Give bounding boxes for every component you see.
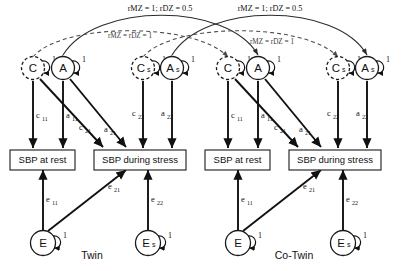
correlation-arc-shared-common: rMZ = rDZ = 1 <box>33 31 228 57</box>
path-label-c22-cotwin-sub: 22 <box>333 114 339 120</box>
path-label-e21-twin: e <box>108 181 112 191</box>
correlation-arc-additive-specific-path <box>172 15 367 55</box>
path-label-c21-twin: c <box>79 122 83 132</box>
latent-node-a-cotwin-label: A <box>254 62 262 74</box>
path-label-e22-cotwin: e <box>346 194 350 204</box>
correlation-arc-additive-common-path <box>63 15 258 55</box>
latent-node-cs-twin-label: C <box>137 62 145 74</box>
latent-node-c-twin: C 1 <box>22 55 57 80</box>
path-label-e22-twin-sub: 22 <box>157 200 163 206</box>
latent-node-e-twin-label: E <box>39 237 47 249</box>
latent-node-a-cotwin: A 1 <box>247 55 282 80</box>
path-c21-cotwin <box>235 79 298 147</box>
path-label-a22-cotwin-sub: 22 <box>362 114 368 120</box>
cotwin-panel: c 11 a 11 c 21 a 21 c 22 a 22 e 11 e 21 <box>205 55 390 261</box>
correlation-arc-shared-specific-path <box>143 31 338 57</box>
path-label-c21-cotwin: c <box>274 122 278 132</box>
path-label-a22-twin-sub: 22 <box>167 114 173 120</box>
correlation-arc-shared-specific: rMZ = rDZ = 1 <box>143 31 338 57</box>
path-a21-twin <box>70 79 126 147</box>
twin-panel: c 11 a 11 c 21 a 21 c 22 a 22 e <box>10 55 195 261</box>
correlation-arc-additive-common: rMZ = 1; rDZ = 0.5 <box>63 4 258 55</box>
observed-node-rest-cotwin-label: SBP at rest <box>214 154 262 165</box>
observed-node-stress-cotwin: SBP during stress <box>289 150 381 170</box>
path-e21-cotwin <box>243 170 321 231</box>
path-label-a22-twin: a <box>161 108 165 118</box>
latent-node-c-cotwin-label: C <box>224 62 232 74</box>
path-label-c22-twin: c <box>132 108 136 118</box>
path-label-a21-twin: a <box>104 124 108 134</box>
path-label-a21-cotwin-sub: 21 <box>305 130 311 136</box>
path-label-c11-cotwin-sub: 11 <box>237 116 243 122</box>
path-label-e21-cotwin-sub: 21 <box>309 187 315 193</box>
self-loop-label-a-cotwin: 1 <box>277 55 281 64</box>
path-label-c21-twin-sub: 21 <box>85 128 91 134</box>
self-loop-label-e-twin: 1 <box>63 231 67 240</box>
correlation-arc-additive-specific: rMZ = 1; rDZ = 0.5 <box>172 4 367 55</box>
latent-node-as-twin-label: A <box>166 62 174 74</box>
observed-node-rest-twin-label: SBP at rest <box>19 154 67 165</box>
latent-node-c-twin-label: C <box>29 62 37 74</box>
self-loop-label-a-twin: 1 <box>82 55 86 64</box>
path-label-e21-cotwin: e <box>303 181 307 191</box>
path-label-a21-cotwin: a <box>299 124 303 134</box>
correlation-label-additive-common: rMZ = 1; rDZ = 0.5 <box>128 4 193 13</box>
path-label-e11-cotwin: e <box>241 194 245 204</box>
latent-node-as-cotwin-label: A <box>361 62 369 74</box>
path-label-e11-cotwin-sub: 11 <box>247 200 253 206</box>
latent-node-a-twin: A 1 <box>52 55 87 80</box>
latent-node-e-cotwin-label: E <box>234 237 242 249</box>
path-label-a22-cotwin: a <box>356 108 360 118</box>
path-c21-twin <box>40 79 103 147</box>
latent-node-es-twin: E s 1 <box>136 231 173 256</box>
observed-node-stress-twin: SBP during stress <box>94 150 186 170</box>
latent-node-as-cotwin: A s 1 <box>356 55 391 80</box>
latent-node-as-twin: A s 1 <box>161 55 196 80</box>
latent-node-es-twin-label: E <box>142 237 150 249</box>
path-label-c11-cotwin: c <box>231 110 235 120</box>
self-loop-label-as-twin: 1 <box>191 55 195 64</box>
path-label-a21-twin-sub: 21 <box>110 130 116 136</box>
latent-node-cs-cotwin-label: C <box>332 62 340 74</box>
correlation-label-shared-specific: rMZ = rDZ = 1 <box>250 38 294 46</box>
self-loop-label-es-cotwin: 1 <box>363 231 367 240</box>
path-e21-twin <box>48 170 126 231</box>
path-label-c11-twin-sub: 11 <box>42 116 48 122</box>
group-label-twin: Twin <box>81 249 103 261</box>
self-loop-label-as-cotwin: 1 <box>386 55 390 64</box>
latent-node-as-twin-subscript: s <box>176 66 180 73</box>
latent-node-cs-twin-subscript: s <box>147 66 151 73</box>
latent-node-es-cotwin-label: E <box>337 237 345 249</box>
correlation-label-shared-common: rMZ = rDZ = 1 <box>108 32 152 40</box>
observed-node-rest-twin: SBP at rest <box>10 150 75 170</box>
latent-node-es-cotwin: E s 1 <box>331 231 368 256</box>
latent-node-cs-cotwin-subscript: s <box>342 66 346 73</box>
path-a21-cotwin <box>265 79 321 147</box>
path-diagram-container: rMZ = 1; rDZ = 0.5 rMZ = rDZ = 1 rMZ = 1… <box>0 0 414 271</box>
path-label-e22-cotwin-sub: 22 <box>352 200 358 206</box>
path-label-e21-twin-sub: 21 <box>114 187 120 193</box>
path-label-c21-cotwin-sub: 21 <box>280 128 286 134</box>
self-loop-label-e-cotwin: 1 <box>258 231 262 240</box>
path-label-e11-twin-sub: 11 <box>52 200 58 206</box>
path-label-c11-twin: c <box>36 110 40 120</box>
latent-node-es-cotwin-subscript: s <box>347 241 351 248</box>
latent-node-es-twin-subscript: s <box>152 241 156 248</box>
path-label-c22-twin-sub: 22 <box>138 114 144 120</box>
observed-node-stress-twin-label: SBP during stress <box>102 154 178 165</box>
latent-node-c-cotwin: C 1 <box>217 55 252 80</box>
correlation-label-additive-specific: rMZ = 1; rDZ = 0.5 <box>238 4 303 13</box>
group-label-cotwin: Co-Twin <box>275 249 314 261</box>
latent-node-e-cotwin: E 1 <box>226 231 263 256</box>
observed-node-stress-cotwin-label: SBP during stress <box>297 154 373 165</box>
latent-node-as-cotwin-subscript: s <box>371 66 375 73</box>
path-label-e22-twin: e <box>151 194 155 204</box>
latent-node-a-twin-label: A <box>59 62 67 74</box>
path-label-c22-cotwin: c <box>327 108 331 118</box>
path-label-e11-twin: e <box>46 194 50 204</box>
self-loop-label-es-twin: 1 <box>168 231 172 240</box>
observed-node-rest-cotwin: SBP at rest <box>205 150 270 170</box>
latent-node-e-twin: E 1 <box>31 231 68 256</box>
twin-path-model-diagram: rMZ = 1; rDZ = 0.5 rMZ = rDZ = 1 rMZ = 1… <box>0 0 414 271</box>
